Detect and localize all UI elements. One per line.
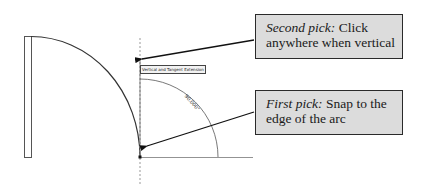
callout-first-pick: First pick: Snap to the edge of the arc bbox=[255, 90, 403, 135]
door-swing-arc bbox=[31, 37, 140, 158]
snap-tooltip: Vertical and Tangent Extension bbox=[140, 65, 206, 74]
arrow-first-pick bbox=[147, 112, 254, 146]
snap-point-marker bbox=[139, 156, 142, 159]
callout-lead: First pick: bbox=[266, 96, 323, 111]
diagram-canvas: Vertical and Tangent Extension 90.000° S… bbox=[0, 0, 426, 185]
arrow-second-pick bbox=[142, 40, 254, 59]
callout-second-pick: Second pick: Click anywhere when vertica… bbox=[255, 14, 403, 59]
callout-lead: Second pick: bbox=[266, 20, 335, 35]
door-panel bbox=[25, 37, 32, 158]
angle-dimension-arc bbox=[140, 79, 218, 157]
